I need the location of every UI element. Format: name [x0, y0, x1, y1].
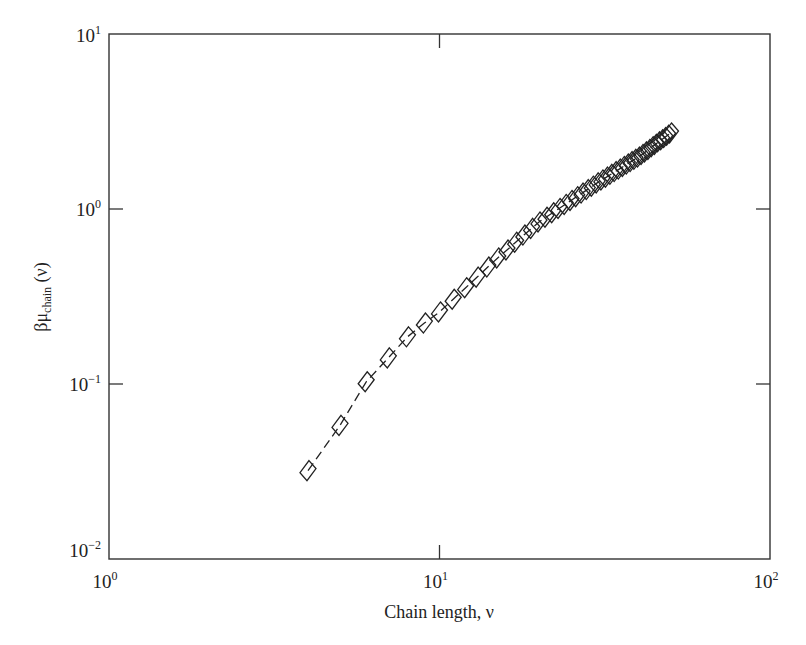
x-axis-ticks: 100101102 — [93, 34, 779, 592]
y-tick-label: 10−2 — [69, 538, 101, 561]
series-line — [308, 133, 671, 471]
x-axis-label: Chain length, ν — [384, 602, 494, 622]
chart: 100101102 10−210−1100101 Chain length, ν… — [0, 0, 806, 645]
y-tick-label: 100 — [76, 197, 101, 220]
y-axis-ticks: 10−210−1100101 — [69, 23, 770, 561]
plot-area — [109, 34, 770, 559]
series-markers — [300, 123, 679, 481]
x-tick-label: 102 — [754, 569, 779, 592]
y-label-main: βμ — [31, 313, 51, 332]
diamond-marker — [432, 302, 448, 322]
y-label-suffix: (ν) — [31, 262, 52, 287]
x-tick-label: 101 — [423, 569, 448, 592]
y-tick-label: 10−1 — [69, 372, 101, 395]
plot-frame — [109, 34, 770, 559]
diamond-marker — [524, 218, 540, 238]
y-tick-label: 101 — [76, 23, 101, 46]
x-tick-label: 100 — [93, 569, 118, 592]
y-axis-label: βμchain (ν) — [31, 262, 54, 331]
series-dashed-line — [308, 133, 671, 471]
y-label-subscript: chain — [40, 287, 54, 313]
